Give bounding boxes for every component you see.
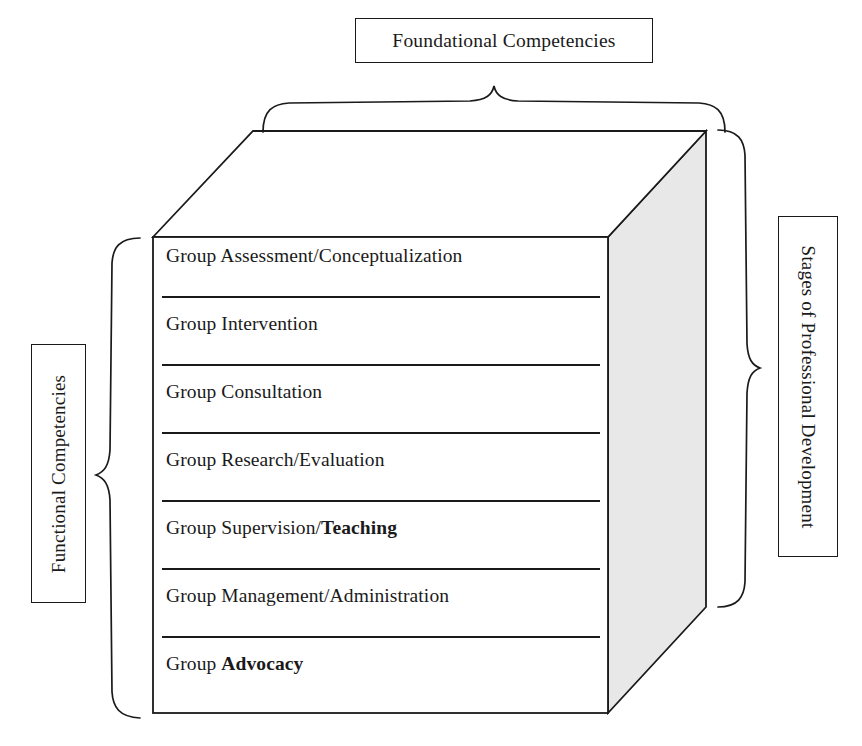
cube-row: Group Assessment/Conceptualization (153, 237, 608, 305)
cube-top-face (153, 131, 706, 237)
label-text-foundational-competencies: Foundational Competencies (392, 30, 615, 52)
cube-row: Group Advocacy (153, 645, 608, 713)
cube-row-label-emphasis: Advocacy (221, 653, 303, 674)
label-box-functional-competencies: Functional Competencies (31, 344, 86, 603)
cube-row-label-text: Group Assessment/Conceptualization (166, 245, 462, 266)
label-box-foundational-competencies: Foundational Competencies (355, 18, 653, 63)
cube-row-label: Group Assessment/Conceptualization (166, 245, 462, 267)
cube-row-label-text: Group Consultation (166, 381, 322, 402)
cube-row-label: Group Consultation (166, 381, 322, 403)
label-text-stages-of-professional-development: Stages of Professional Development (797, 245, 819, 528)
cube-row: Group Intervention (153, 305, 608, 373)
cube-row-label-emphasis: Teaching (321, 517, 397, 538)
cube-row-label: Group Intervention (166, 313, 318, 335)
cube-row: Group Research/Evaluation (153, 441, 608, 509)
cube-row: Group Supervision/Teaching (153, 509, 608, 577)
cube-row: Group Consultation (153, 373, 608, 441)
cube-row-label-text: Group Management/Administration (166, 585, 449, 606)
cube-row-label-text: Group (166, 653, 221, 674)
cube-row-label: Group Advocacy (166, 653, 303, 675)
cube-front-row-list: Group Assessment/Conceptualization Group… (153, 237, 608, 713)
cube-row: Group Management/Administration (153, 577, 608, 645)
cube-row-label-text: Group Research/Evaluation (166, 449, 385, 470)
label-text-functional-competencies: Functional Competencies (48, 374, 70, 572)
cube-row-label-text: Group Intervention (166, 313, 318, 334)
cube-row-label: Group Research/Evaluation (166, 449, 385, 471)
competency-cube-diagram: Foundational Competencies Functional Com… (0, 0, 862, 746)
cube-row-label-text: Group Supervision/ (166, 517, 321, 538)
cube-row-label: Group Management/Administration (166, 585, 449, 607)
label-box-stages-of-professional-development: Stages of Professional Development (778, 216, 838, 557)
brace-top (263, 86, 725, 132)
cube-row-label: Group Supervision/Teaching (166, 517, 397, 539)
brace-left (96, 238, 140, 718)
brace-right (718, 130, 760, 607)
